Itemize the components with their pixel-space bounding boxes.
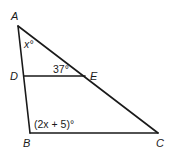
triangle-diagram: A D E B C x° 37° (2x + 5)° <box>0 0 172 158</box>
segment-ac <box>18 26 158 133</box>
vertex-label-d: D <box>10 70 18 82</box>
angle-label-x: x° <box>23 38 33 50</box>
vertex-label-e: E <box>90 70 98 82</box>
vertex-label-b: B <box>23 137 30 149</box>
vertex-label-c: C <box>156 137 164 149</box>
angle-label-37: 37° <box>53 63 69 75</box>
angle-label-2x-plus-5: (2x + 5)° <box>34 118 74 130</box>
vertex-label-a: A <box>10 10 18 22</box>
